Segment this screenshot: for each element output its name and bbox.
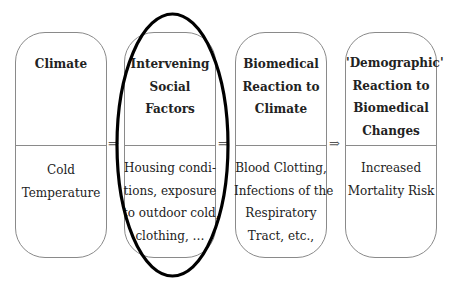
highlight-ellipse [0,0,454,288]
